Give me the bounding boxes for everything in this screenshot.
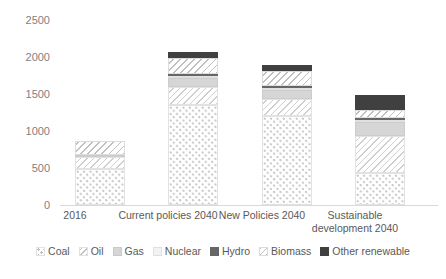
bar-segment-coal bbox=[262, 116, 312, 205]
stacked-bar-chart: 2500 2000 1500 1000 500 0 2016 Current p… bbox=[0, 0, 446, 279]
bar-sustainable-development-2040 bbox=[355, 95, 405, 205]
bar-segment-coal bbox=[75, 169, 125, 205]
legend-label-nuclear: Nuclear bbox=[165, 245, 201, 257]
plot-area bbox=[60, 20, 438, 205]
bar-new-policies-2040 bbox=[262, 65, 312, 205]
bar-segment-coal bbox=[168, 105, 218, 205]
bar-segment-biomass bbox=[355, 110, 405, 118]
nuclear-solid-swatch-icon bbox=[153, 247, 162, 256]
x-label-line1: Sustainable bbox=[295, 209, 415, 222]
y-axis: 2500 2000 1500 1000 500 0 bbox=[0, 0, 58, 205]
gas-solid-swatch-icon bbox=[113, 247, 122, 256]
bar-current-policies-2040 bbox=[168, 52, 218, 205]
chart-legend: Coal Oil Gas Nuclear Hydro Biomass Other… bbox=[0, 245, 446, 257]
legend-item-gas: Gas bbox=[113, 245, 144, 257]
oil-hatch-swatch-icon bbox=[79, 247, 88, 256]
bar-segment-biomass bbox=[75, 141, 125, 154]
bar-segment-biomass bbox=[168, 58, 218, 74]
y-tick-1000: 1000 bbox=[26, 126, 50, 137]
x-label-line2: development 2040 bbox=[295, 222, 415, 235]
bar-segment-other-renewable bbox=[355, 95, 405, 110]
hydro-solid-swatch-icon bbox=[210, 247, 219, 256]
bar-segment-gas bbox=[355, 122, 405, 136]
legend-item-other-renewable: Other renewable bbox=[320, 245, 410, 257]
bar-2016 bbox=[75, 141, 125, 205]
x-axis-line bbox=[60, 205, 438, 206]
legend-item-nuclear: Nuclear bbox=[153, 245, 201, 257]
x-label-sustainable-development-2040: Sustainable development 2040 bbox=[295, 209, 415, 234]
y-tick-1500: 1500 bbox=[26, 89, 50, 100]
legend-label-other-renewable: Other renewable bbox=[332, 245, 410, 257]
bar-segment-gas bbox=[168, 78, 218, 87]
y-tick-500: 500 bbox=[32, 163, 50, 174]
other-renewable-solid-swatch-icon bbox=[320, 247, 329, 256]
legend-item-oil: Oil bbox=[79, 245, 104, 257]
coal-dotted-swatch-icon bbox=[36, 247, 45, 256]
legend-label-coal: Coal bbox=[48, 245, 70, 257]
bar-segment-coal bbox=[355, 173, 405, 205]
legend-label-biomass: Biomass bbox=[271, 245, 311, 257]
bar-segment-oil bbox=[168, 87, 218, 106]
bar-segment-gas bbox=[262, 90, 312, 99]
legend-item-biomass: Biomass bbox=[259, 245, 311, 257]
legend-item-hydro: Hydro bbox=[210, 245, 250, 257]
biomass-hatch-swatch-icon bbox=[259, 247, 268, 256]
bar-segment-oil bbox=[75, 157, 125, 170]
legend-label-oil: Oil bbox=[91, 245, 104, 257]
y-tick-2000: 2000 bbox=[26, 52, 50, 63]
legend-label-hydro: Hydro bbox=[222, 245, 250, 257]
bar-segment-biomass bbox=[262, 71, 312, 87]
bar-segment-oil bbox=[262, 99, 312, 116]
legend-item-coal: Coal bbox=[36, 245, 70, 257]
y-tick-2500: 2500 bbox=[26, 15, 50, 26]
legend-label-gas: Gas bbox=[125, 245, 144, 257]
bar-segment-oil bbox=[355, 136, 405, 173]
